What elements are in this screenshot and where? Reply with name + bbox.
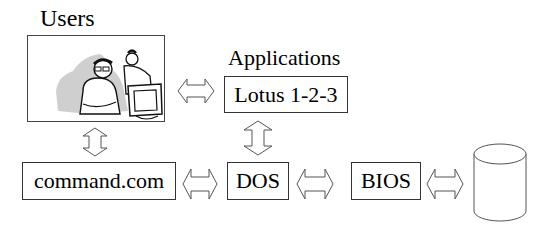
arrow-applications-os-icon — [243, 120, 273, 156]
arrow-shell-os-icon — [182, 168, 218, 200]
bios-node: BIOS — [351, 162, 421, 200]
arrow-firmware-storage-icon — [426, 168, 464, 200]
arrow-users-shell-icon — [82, 127, 108, 157]
users-at-computer-icon — [28, 36, 166, 123]
applications-heading: Applications — [228, 47, 340, 69]
disk-storage-icon — [472, 143, 528, 223]
lotus-node: Lotus 1-2-3 — [224, 76, 348, 113]
arrow-users-applications-icon — [177, 78, 215, 104]
arrow-os-firmware-icon — [296, 168, 334, 200]
users-label: Users — [40, 6, 95, 30]
dos-node: DOS — [227, 162, 289, 200]
users-image-box — [27, 35, 165, 122]
command-com-node: command.com — [22, 162, 176, 200]
